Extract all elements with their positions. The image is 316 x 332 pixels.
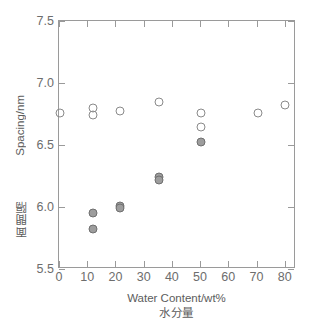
data-point-open <box>253 109 262 118</box>
x-tick-label: 0 <box>56 270 63 284</box>
x-tick-mark <box>228 261 229 267</box>
x-tick-mark-top <box>87 21 88 27</box>
y-tick-mark-right <box>288 207 294 208</box>
y-axis-label-japanese: 面間隔 <box>14 200 28 238</box>
y-axis-label: Spacing/nm <box>14 95 28 156</box>
x-tick-label: 30 <box>137 270 151 284</box>
y-tick-mark <box>59 207 65 208</box>
x-tick-mark <box>172 261 173 267</box>
y-tick-label: 6.0 <box>37 200 54 214</box>
data-point-filled <box>155 175 164 184</box>
data-point-open <box>89 110 98 119</box>
data-point-open <box>197 123 206 132</box>
y-tick-mark-right <box>288 83 294 84</box>
x-tick-mark-top <box>257 21 258 27</box>
x-axis-label: Water Content/wt% <box>58 291 295 306</box>
x-tick-mark <box>59 261 60 267</box>
x-tick-mark-top <box>115 21 116 27</box>
x-tick-mark <box>200 261 201 267</box>
x-tick-label: 70 <box>250 270 264 284</box>
chart-page: 5.56.06.57.07.5 01020304050607080 Spacin… <box>0 0 316 332</box>
x-tick-label: 60 <box>221 270 235 284</box>
plot-area: 5.56.06.57.07.5 01020304050607080 <box>58 20 295 268</box>
data-point-open <box>55 109 64 118</box>
y-tick-label: 7.0 <box>37 76 54 90</box>
x-tick-mark-top <box>172 21 173 27</box>
data-point-open <box>197 109 206 118</box>
x-tick-label: 20 <box>108 270 122 284</box>
x-tick-mark <box>285 261 286 267</box>
x-tick-label: 50 <box>193 270 207 284</box>
data-point-open <box>115 106 124 115</box>
y-tick-label: 5.5 <box>37 262 54 276</box>
data-point-open <box>281 100 290 109</box>
y-tick-mark <box>59 145 65 146</box>
x-axis-label-group: Water Content/wt% 水分量 <box>58 291 295 321</box>
data-point-filled <box>89 224 98 233</box>
x-tick-mark-top <box>228 21 229 27</box>
x-tick-mark <box>144 261 145 267</box>
y-tick-label: 7.5 <box>37 14 54 28</box>
x-tick-mark <box>257 261 258 267</box>
x-tick-mark <box>115 261 116 267</box>
y-tick-label: 6.5 <box>37 138 54 152</box>
y-tick-mark <box>59 83 65 84</box>
x-tick-mark <box>87 261 88 267</box>
x-axis-label-japanese: 水分量 <box>58 306 295 321</box>
x-tick-label: 10 <box>80 270 94 284</box>
data-point-filled <box>89 208 98 217</box>
data-point-open <box>155 97 164 106</box>
x-tick-mark-top <box>144 21 145 27</box>
data-point-filled <box>115 204 124 213</box>
x-tick-mark-top <box>59 21 60 27</box>
x-tick-label: 40 <box>165 270 179 284</box>
x-tick-mark-top <box>285 21 286 27</box>
x-tick-label: 80 <box>278 270 292 284</box>
y-tick-mark-right <box>288 21 294 22</box>
data-point-filled <box>197 137 206 146</box>
x-tick-mark-top <box>200 21 201 27</box>
y-tick-mark-right <box>288 145 294 146</box>
